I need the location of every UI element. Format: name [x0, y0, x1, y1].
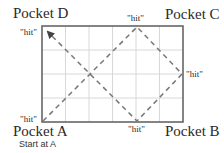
hit-label-right: "hit"	[186, 70, 203, 79]
start-note: Start at A	[19, 140, 56, 149]
pocket-c-label: Pocket C	[165, 7, 220, 22]
hit-label-top: "hit"	[127, 14, 144, 23]
pocket-a-label: Pocket A	[13, 124, 68, 139]
hit-label-top-left: "hit"	[20, 28, 37, 37]
pocket-d-label: Pocket D	[13, 6, 68, 21]
pocket-b-label: Pocket B	[165, 124, 220, 139]
table-grid	[42, 26, 183, 122]
hit-label-bottom: "hit"	[128, 125, 145, 134]
hit-label-bottom-left: "hit"	[20, 115, 37, 124]
